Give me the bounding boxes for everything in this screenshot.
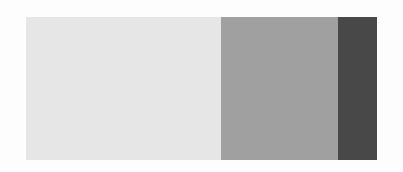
chart-canvas [0,0,403,172]
bar-segment-dark [338,17,377,160]
stacked-bar [26,17,377,160]
bar-segment-light [26,17,221,160]
bar-segment-medium [221,17,338,160]
